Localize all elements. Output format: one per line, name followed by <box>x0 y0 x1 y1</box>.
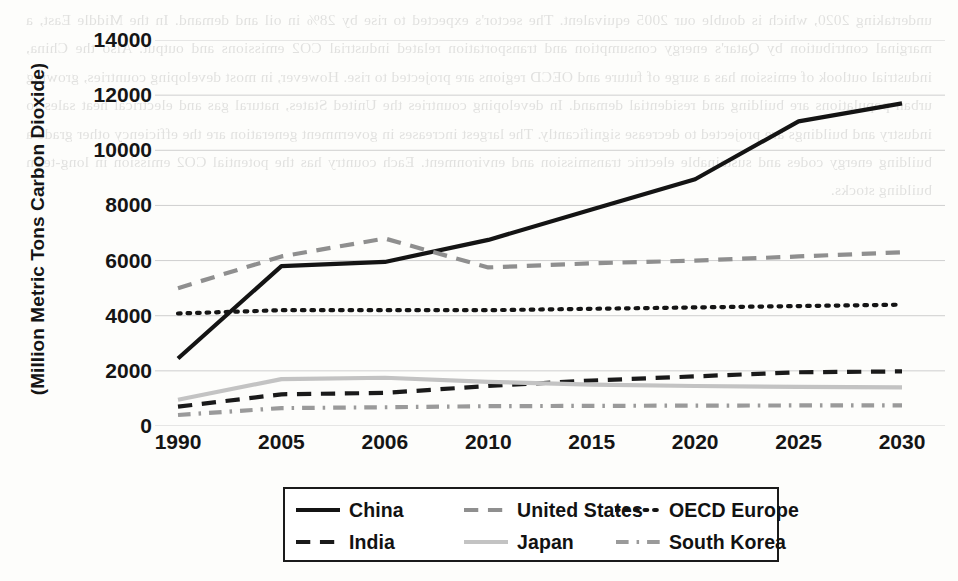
legend-swatch-icon <box>295 503 341 517</box>
y-tick-10000: 10000 <box>60 138 152 162</box>
legend-item-india[interactable]: India <box>295 527 395 557</box>
legend-label: South Korea <box>669 531 786 554</box>
x-tick-2005: 2005 <box>236 430 326 454</box>
x-tick-2020: 2020 <box>650 430 740 454</box>
y-axis-tick-labels: 02000400060008000100001200014000 <box>52 0 152 581</box>
x-tick-2010: 2010 <box>443 430 533 454</box>
y-tick-12000: 12000 <box>60 83 152 107</box>
legend-item-south-korea[interactable]: South Korea <box>615 527 786 557</box>
x-tick-2006: 2006 <box>340 430 430 454</box>
legend-label: India <box>349 531 395 554</box>
legend-swatch-icon <box>463 503 509 517</box>
series-line-south-korea <box>178 405 902 415</box>
x-tick-2030: 2030 <box>857 430 947 454</box>
y-tick-4000: 4000 <box>60 304 152 328</box>
x-tick-1990: 1990 <box>133 430 223 454</box>
y-tick-8000: 8000 <box>60 193 152 217</box>
x-tick-2015: 2015 <box>547 430 637 454</box>
y-tick-6000: 6000 <box>60 249 152 273</box>
legend-swatch-icon <box>295 535 341 549</box>
gridlines <box>155 40 945 426</box>
legend-swatch-icon <box>615 503 661 517</box>
legend-label: China <box>349 499 404 522</box>
legend-item-japan[interactable]: Japan <box>463 527 574 557</box>
emissions-line-chart: (Million Metric Tons Carbon Dioxide) 020… <box>0 0 958 581</box>
chart-svg <box>155 40 945 426</box>
legend-grid: ChinaUnited StatesOECD EuropeIndiaJapanS… <box>285 489 777 560</box>
series-line-india <box>178 371 902 406</box>
y-tick-2000: 2000 <box>60 359 152 383</box>
legend-item-china[interactable]: China <box>295 495 404 525</box>
legend-swatch-icon <box>615 535 661 549</box>
chart-legend: ChinaUnited StatesOECD EuropeIndiaJapanS… <box>283 487 779 562</box>
y-tick-14000: 14000 <box>60 28 152 52</box>
legend-label: OECD Europe <box>669 499 799 522</box>
series-line-oecd-europe <box>178 305 902 314</box>
x-tick-2025: 2025 <box>754 430 844 454</box>
series-line-japan <box>178 378 902 400</box>
series-line-china <box>178 103 902 358</box>
legend-item-oecd-europe[interactable]: OECD Europe <box>615 495 799 525</box>
legend-label: Japan <box>517 531 574 554</box>
x-axis-tick-labels: 19902005200620102015202020252030 <box>155 430 945 464</box>
legend-swatch-icon <box>463 535 509 549</box>
series-line-united-states <box>178 239 902 289</box>
y-axis-title: (Million Metric Tons Carbon Dioxide) <box>27 39 49 419</box>
plot-area <box>155 40 945 426</box>
